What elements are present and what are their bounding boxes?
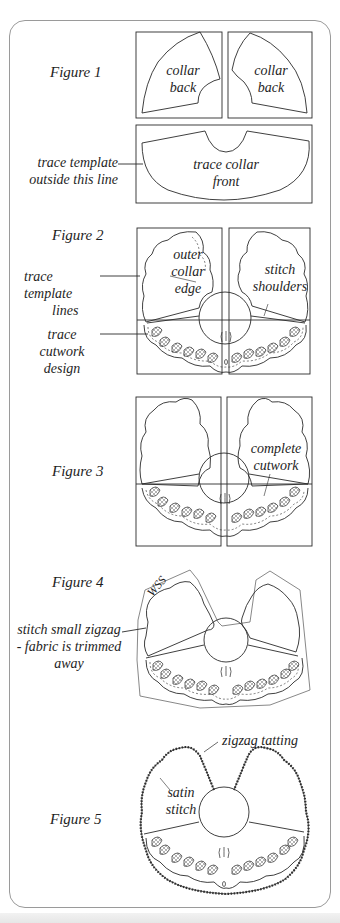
complete-cutwork-label: complete cutwork	[244, 440, 308, 474]
collar-back-left-label: collar back	[160, 62, 206, 96]
stitch-small-zigzag-note: stitch small zigzag - fabric is trimmed …	[14, 621, 124, 672]
collar-back-right-label: collar back	[248, 62, 294, 96]
stitch-shoulders-label: stitch shoulders	[250, 261, 310, 295]
outer-collar-edge-label: outer collar edge	[168, 246, 208, 297]
figure-4-label: Figure 4	[52, 574, 104, 591]
figure-1-label: Figure 1	[50, 64, 102, 81]
figure-2-label: Figure 2	[52, 227, 104, 244]
page-bottom-edge	[0, 913, 340, 923]
figure-5-artwork	[141, 742, 309, 894]
satin-stitch-label: satin stitch	[160, 784, 202, 818]
trace-collar-front-label: trace collar front	[188, 156, 264, 190]
trace-template-lines-note: trace template lines	[24, 268, 100, 319]
trace-template-outside-note: trace template outside this line	[16, 154, 118, 188]
figure-3-label: Figure 3	[52, 463, 104, 480]
zigzag-tatting-label: zigzag tatting	[218, 732, 302, 749]
figure-5-label: Figure 5	[50, 811, 102, 828]
trace-cutwork-design-note: trace cutwork design	[24, 326, 100, 377]
